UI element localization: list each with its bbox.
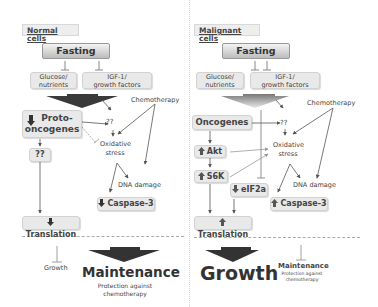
growth-small-label: Growth bbox=[44, 264, 68, 272]
s6k-label: S6K bbox=[207, 172, 225, 181]
caspase-3-label: Caspase-3 bbox=[280, 199, 326, 208]
up-arrow-icon bbox=[198, 147, 205, 155]
translation-box: Translation bbox=[22, 216, 80, 230]
igf1-growth-factors-box: IGF-1/ growth factors bbox=[250, 72, 320, 89]
malignant-cells-header: Malignant cells bbox=[194, 24, 260, 36]
unknown-mediator-1: ?? bbox=[106, 118, 113, 126]
dna-damage-label: DNA damage bbox=[293, 181, 336, 189]
eif2a-label: eIF2a bbox=[241, 185, 266, 194]
glucose-label: Glucose/ bbox=[31, 73, 76, 81]
igf1-label: IGF-1/ bbox=[251, 73, 319, 81]
up-arrow-icon bbox=[219, 218, 226, 226]
eif2a-box: eIF2a bbox=[230, 183, 268, 197]
translation-label: Translation bbox=[26, 230, 76, 239]
igf1-label: IGF-1/ bbox=[83, 73, 151, 81]
protection-line-1: Protection against bbox=[278, 271, 326, 277]
glucose-nutrients-box: Glucose/ nutrients bbox=[196, 72, 244, 89]
maintenance-small-label: Maintenance bbox=[278, 262, 326, 270]
protection-label: Protection against chemotherapy bbox=[278, 271, 326, 282]
protection-line-2: chemotherapy bbox=[278, 277, 326, 283]
chemotherapy-label: Chemotherapy bbox=[131, 96, 179, 104]
dna-damage-label: DNA damage bbox=[118, 181, 161, 189]
oxidative-stress-label: Oxidative stress bbox=[273, 141, 303, 159]
caspase-3-label: Caspase-3 bbox=[107, 199, 153, 208]
protection-line-1: Protection against bbox=[82, 282, 168, 290]
unknown-mediator-2-box: ?? bbox=[29, 148, 51, 162]
chemotherapy-label: Chemotherapy bbox=[307, 99, 355, 107]
caspase-3-box: Caspase-3 bbox=[270, 197, 328, 211]
nutrients-label: nutrients bbox=[197, 81, 243, 89]
igf1-growth-factors-box: IGF-1/ growth factors bbox=[82, 72, 152, 89]
s6k-box: S6K bbox=[194, 170, 228, 183]
stress-label: stress bbox=[273, 150, 303, 159]
protection-line-2: chemotherapy bbox=[82, 290, 168, 298]
translation-box: Translation bbox=[194, 216, 252, 230]
panel-divider bbox=[189, 0, 190, 307]
down-arrow-icon bbox=[27, 115, 35, 129]
nutrients-label: nutrients bbox=[31, 81, 76, 89]
normal-cells-header: Normal cells bbox=[22, 24, 79, 36]
fasting-box: Fasting bbox=[42, 43, 110, 59]
unknown-mediator: ?? bbox=[280, 119, 287, 127]
down-arrow-icon bbox=[98, 199, 105, 207]
down-arrow-icon bbox=[47, 218, 54, 226]
stress-label: stress bbox=[100, 149, 130, 158]
growth-factors-label: growth factors bbox=[83, 81, 151, 89]
fasting-box: Fasting bbox=[222, 43, 290, 59]
up-arrow-icon bbox=[271, 199, 278, 207]
caspase-3-box: Caspase-3 bbox=[97, 197, 155, 211]
growth-factors-label: growth factors bbox=[251, 81, 319, 89]
proto-oncogenes-box: Proto- oncogenes bbox=[22, 110, 82, 138]
maintenance-large-label: Maintenance bbox=[82, 264, 168, 280]
oxidative-label: Oxidative bbox=[273, 141, 303, 150]
akt-box: Akt bbox=[194, 145, 226, 158]
down-arrow-icon bbox=[232, 185, 239, 193]
oxidative-stress-label: Oxidative stress bbox=[100, 140, 130, 158]
oncogenes-box: Oncogenes bbox=[192, 115, 252, 130]
translation-label: Translation bbox=[198, 230, 248, 239]
growth-large-label: Growth bbox=[200, 262, 268, 284]
oxidative-label: Oxidative bbox=[100, 140, 130, 149]
protection-label: Protection against chemotherapy bbox=[82, 282, 168, 297]
akt-label: Akt bbox=[207, 147, 222, 156]
glucose-label: Glucose/ bbox=[197, 73, 243, 81]
up-arrow-icon bbox=[198, 172, 205, 180]
glucose-nutrients-box: Glucose/ nutrients bbox=[30, 72, 77, 89]
